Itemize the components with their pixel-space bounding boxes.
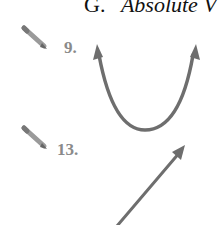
parabola-graph [93,44,200,130]
graphs [0,0,224,225]
line-graph [117,145,185,225]
arrow-head-icon [93,44,103,60]
